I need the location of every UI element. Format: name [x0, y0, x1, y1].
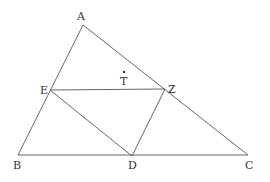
geometry-diagram: A B C D E Z T	[0, 0, 270, 182]
segment-ZD	[132, 89, 165, 156]
label-E: E	[40, 84, 48, 97]
label-T: T	[120, 75, 128, 88]
label-C: C	[245, 159, 253, 172]
label-D: D	[128, 159, 137, 172]
point-T-dot	[123, 71, 125, 73]
label-A: A	[76, 10, 86, 23]
segment-AC	[83, 25, 248, 155]
label-B: B	[13, 159, 21, 172]
segments	[18, 25, 248, 156]
segment-EZ	[50, 89, 165, 90]
labels: A B C D E Z T	[13, 10, 253, 172]
segment-ED	[50, 90, 132, 156]
label-Z: Z	[168, 83, 176, 96]
